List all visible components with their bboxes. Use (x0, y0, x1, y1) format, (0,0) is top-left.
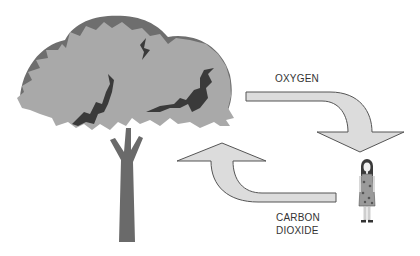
tree-trunk (110, 128, 143, 242)
diagram-canvas (0, 0, 420, 256)
tree-illustration (17, 16, 234, 242)
oxygen-arrow (246, 92, 404, 152)
carbon-dioxide-label-line1: CARBON (276, 211, 320, 224)
oxygen-label: OXYGEN (275, 72, 319, 85)
person-illustration (359, 159, 375, 223)
carbon-dioxide-label-line2: DIOXIDE (276, 224, 320, 237)
carbon-dioxide-label: CARBON DIOXIDE (276, 211, 320, 237)
carbon-dioxide-arrow (177, 143, 336, 202)
